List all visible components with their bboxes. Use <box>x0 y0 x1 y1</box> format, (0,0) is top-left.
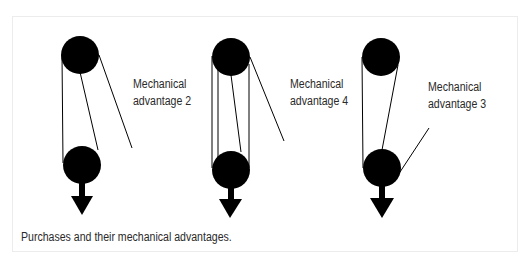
movable-pulley-icon <box>212 151 250 189</box>
label-line2: advantage 3 <box>428 96 486 113</box>
rope <box>362 57 363 168</box>
fixed-pulley-icon <box>212 38 250 76</box>
rope <box>400 128 429 172</box>
rope <box>250 57 284 141</box>
rope <box>62 55 63 163</box>
load-stem <box>79 182 85 198</box>
load-stem <box>228 187 234 201</box>
label-line2: advantage 2 <box>133 93 191 110</box>
label-line1: Mechanical <box>133 76 191 93</box>
load-stem <box>379 185 385 199</box>
pulley-diagram <box>0 0 531 268</box>
movable-pulley-icon <box>363 149 401 187</box>
pulley-system-ma3 <box>362 38 429 218</box>
label-ma3: Mechanical advantage 3 <box>428 79 486 113</box>
label-line1: Mechanical <box>428 79 486 96</box>
rope <box>382 65 398 150</box>
rope <box>231 75 241 152</box>
pulley-system-ma4 <box>212 38 284 218</box>
label-line2: advantage 4 <box>290 93 348 110</box>
load-arrow-icon <box>219 199 242 218</box>
fixed-pulley-icon <box>61 36 99 74</box>
load-arrow-icon <box>71 196 93 215</box>
fixed-pulley-icon <box>362 38 400 76</box>
label-ma4: Mechanical advantage 4 <box>290 76 348 110</box>
pulley-system-ma2 <box>61 36 132 215</box>
rope <box>80 72 98 150</box>
label-line1: Mechanical <box>290 76 348 93</box>
movable-pulley-icon <box>63 146 101 184</box>
rope <box>99 55 132 148</box>
load-arrow-icon <box>370 198 394 218</box>
label-ma2: Mechanical advantage 2 <box>133 76 191 110</box>
